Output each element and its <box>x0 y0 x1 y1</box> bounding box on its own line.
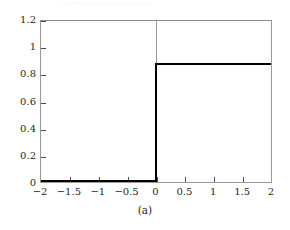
x-tick-label-minus-2: −2 <box>33 186 48 198</box>
curve-segment-lower <box>41 180 157 183</box>
y-tick-0-6 <box>41 103 46 104</box>
x-tick-label-1-5: 1.5 <box>234 186 250 198</box>
x-axis-tick-labels: −2 −1.5 −1 −0.5 0 0.5 1 1.5 2 <box>40 186 272 200</box>
y-tick-label-0-2: 0.2 <box>20 151 36 161</box>
x-tick-1-5 <box>243 177 244 182</box>
x-tick-label-minus-0-5: −0.5 <box>114 186 138 198</box>
x-tick-label-0-5: 0.5 <box>176 186 192 198</box>
y-tick-0-2 <box>41 157 46 158</box>
y-tick-label-0-8: 0.8 <box>20 69 36 79</box>
y-axis-tick-labels: 1.2 1 0.8 0.6 0.4 0.2 0 <box>0 20 36 183</box>
y-tick-1-2 <box>41 21 46 22</box>
x-tick-label-0: 0 <box>152 186 158 198</box>
figure-panel-a: ·· ···· ··· ····· ···· ·· ······ 1.2 1 0… <box>0 0 290 230</box>
y-tick-label-1: 1 <box>30 42 36 52</box>
x-tick-0-5 <box>185 177 186 182</box>
x-tick-label-1: 1 <box>210 186 216 198</box>
y-tick-0-8 <box>41 75 46 76</box>
x-tick-label-2: 2 <box>268 186 274 198</box>
curve-segment-upper <box>155 63 271 66</box>
x-tick-1 <box>214 177 215 182</box>
page-bleed-artifact: ·· ···· ··· ····· ···· ·· ······ <box>62 0 274 7</box>
y-tick-label-0-6: 0.6 <box>20 97 36 107</box>
y-tick-0-4 <box>41 130 46 131</box>
figure-caption: (a) <box>0 204 290 216</box>
x-tick-label-minus-1-5: −1.5 <box>57 186 81 198</box>
x-tick-label-minus-1: −1 <box>90 186 105 198</box>
plot-area <box>40 20 272 183</box>
y-tick-1 <box>41 48 46 49</box>
curve-segment-jump <box>155 63 158 182</box>
y-tick-label-1-2: 1.2 <box>20 15 36 25</box>
y-tick-label-0-4: 0.4 <box>20 124 36 134</box>
